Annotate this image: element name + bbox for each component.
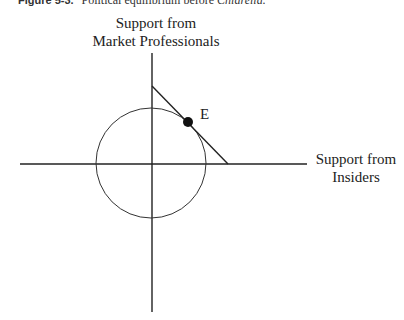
equilibrium-diagram (0, 0, 404, 320)
equilibrium-point-label: E (200, 106, 209, 123)
equilibrium-point (183, 117, 193, 127)
